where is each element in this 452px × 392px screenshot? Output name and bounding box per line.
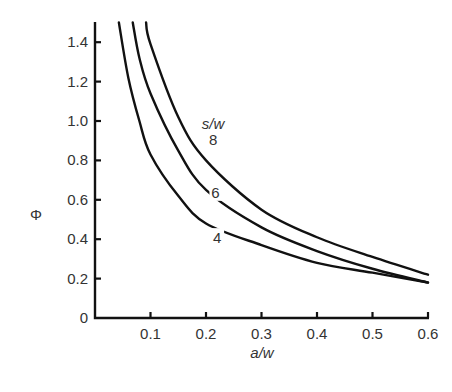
ticks: 00.20.40.60.81.01.21.40.10.20.30.40.50.6 — [67, 33, 438, 342]
curve-sw-8 — [146, 23, 428, 275]
y-tick-label: 0.8 — [67, 151, 88, 168]
x-tick-label: 0.4 — [307, 325, 328, 342]
x-tick-label: 0.5 — [362, 325, 383, 342]
x-tick-label: 0.2 — [196, 325, 217, 342]
y-tick-label: 1.2 — [67, 73, 88, 90]
y-tick-label: 0 — [80, 309, 88, 326]
x-axis-label: a/w — [250, 344, 275, 361]
y-tick-label: 0.4 — [67, 230, 88, 247]
legend-title: s/w — [202, 115, 226, 132]
x-tick-label: 0.1 — [140, 325, 161, 342]
curve-label-8: 8 — [209, 131, 217, 148]
curve-sw-6 — [133, 23, 428, 283]
y-tick-label: 1.0 — [67, 112, 88, 129]
curve-label-6: 6 — [211, 184, 219, 201]
curve-sw-4 — [119, 23, 428, 283]
y-axis-label: Φ — [30, 206, 42, 223]
x-tick-label: 0.6 — [418, 325, 439, 342]
curve-label-4: 4 — [213, 229, 221, 246]
y-tick-label: 0.6 — [67, 191, 88, 208]
y-tick-label: 1.4 — [67, 33, 88, 50]
y-tick-label: 0.2 — [67, 270, 88, 287]
x-tick-label: 0.3 — [251, 325, 272, 342]
chart: 00.20.40.60.81.01.21.40.10.20.30.40.50.6… — [0, 0, 452, 392]
curves — [119, 23, 428, 283]
